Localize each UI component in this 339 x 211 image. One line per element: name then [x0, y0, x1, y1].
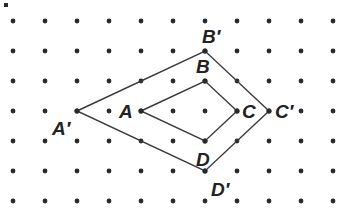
grid-dot: [11, 49, 16, 54]
grid-dot: [139, 169, 144, 174]
grid-dot: [11, 79, 16, 84]
grid-dot: [235, 169, 240, 174]
grid-dot: [331, 49, 336, 54]
vertex-point: [266, 108, 271, 113]
grid-dot: [43, 109, 48, 114]
grid-dot: [107, 109, 112, 114]
grid-dot: [11, 169, 16, 174]
vertex-label: C: [242, 101, 256, 122]
grid-dot: [107, 199, 112, 204]
dilation-diagram: ABCDA′B′C′D′: [0, 0, 339, 211]
grid-dot: [11, 139, 16, 144]
dot-grid-canvas: ABCDA′B′C′D′: [0, 0, 339, 211]
grid-dot: [299, 79, 304, 84]
grid-dot: [235, 19, 240, 24]
grid-dot: [43, 49, 48, 54]
vertex-point: [202, 48, 207, 53]
grid-dot: [267, 79, 272, 84]
grid-dot: [11, 109, 16, 114]
grid-dot: [331, 139, 336, 144]
grid-dot: [331, 169, 336, 174]
vertex-label: A: [118, 101, 133, 122]
grid-dot: [107, 49, 112, 54]
grid-dot: [331, 109, 336, 114]
grid-dot: [107, 139, 112, 144]
grid-dot: [75, 199, 80, 204]
vertex-point: [234, 108, 239, 113]
grid-dot: [107, 169, 112, 174]
grid-dot: [43, 79, 48, 84]
grid-dot: [203, 19, 208, 24]
grid-dot: [267, 199, 272, 204]
vertex-label: D: [196, 149, 210, 170]
vertex-label: B′: [202, 26, 222, 47]
grid-dot: [139, 19, 144, 24]
grid-dot: [75, 139, 80, 144]
vertex-label: D′: [211, 179, 231, 200]
grid-dot: [43, 199, 48, 204]
grid-dot: [331, 79, 336, 84]
grid-dot: [203, 109, 208, 114]
grid-dot: [171, 139, 176, 144]
grid-dot: [267, 49, 272, 54]
cropped-label-fragment: [4, 3, 8, 7]
grid-dot: [235, 49, 240, 54]
grid-dot: [139, 49, 144, 54]
grid-dot: [331, 19, 336, 24]
vertex-point: [202, 78, 207, 83]
vertex-label: B: [196, 56, 210, 77]
grid-dot: [171, 109, 176, 114]
grid-dot: [299, 19, 304, 24]
grid-dot: [267, 139, 272, 144]
vertex-point: [138, 108, 143, 113]
grid-dot: [203, 199, 208, 204]
grid-dot: [43, 139, 48, 144]
grid-dot: [107, 79, 112, 84]
grid-dot: [235, 199, 240, 204]
vertex-label: A′: [51, 118, 72, 139]
grid-dot: [107, 19, 112, 24]
vertex-label: C′: [275, 101, 295, 122]
grid-dot: [171, 79, 176, 84]
vertex-point: [74, 108, 79, 113]
grid-dot: [267, 19, 272, 24]
grid-dot: [171, 199, 176, 204]
grid-dot: [299, 49, 304, 54]
vertex-point: [202, 138, 207, 143]
grid-dot: [75, 79, 80, 84]
grid-dot: [267, 169, 272, 174]
grid-dot: [331, 199, 336, 204]
grid-dot: [43, 19, 48, 24]
corner-fragment-mark: [4, 3, 8, 7]
grid-dot: [299, 109, 304, 114]
grid-dot: [299, 169, 304, 174]
grid-dot: [171, 169, 176, 174]
grid-dot: [43, 169, 48, 174]
grid-dot: [11, 19, 16, 24]
grid-dot: [299, 199, 304, 204]
grid-dot: [299, 139, 304, 144]
grid-dot: [171, 49, 176, 54]
grid-dot: [75, 19, 80, 24]
grid-dot: [75, 49, 80, 54]
original-quadrilateral: [141, 81, 237, 141]
grid-dot: [139, 199, 144, 204]
grid-dot: [171, 19, 176, 24]
grid-dot: [75, 169, 80, 174]
grid-dot: [11, 199, 16, 204]
